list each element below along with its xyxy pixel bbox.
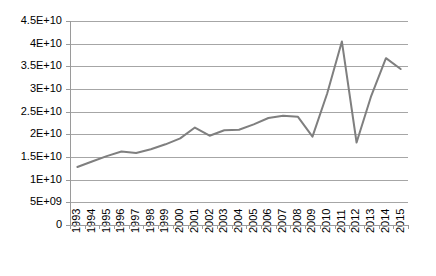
x-axis-tick-labels: 1993199419951996199719981999200020012002…: [70, 209, 405, 233]
x-tick-label: 2005: [247, 209, 259, 233]
x-tick-label: 2007: [276, 209, 288, 233]
x-tick-label: 2001: [188, 209, 200, 233]
x-tick-label: 1993: [70, 209, 82, 233]
y-tick-label: 5E+09: [30, 195, 62, 207]
gridlines: [66, 22, 408, 226]
y-tick-label: 1E+10: [30, 173, 62, 185]
x-tick-label: 2002: [203, 209, 215, 233]
x-tick-label: 2009: [305, 209, 317, 233]
x-tick-label: 1998: [144, 209, 156, 233]
y-tick-label: 1.5E+10: [21, 150, 62, 162]
x-tick-label: 2015: [394, 209, 406, 233]
line-chart: 05E+091E+101.5E+102E+102.5E+103E+103.5E+…: [0, 0, 436, 276]
y-tick-label: 3E+10: [30, 82, 62, 94]
y-tick-label: 0: [56, 218, 62, 230]
x-tick-label: 2012: [349, 209, 361, 233]
x-tick-label: 2006: [261, 209, 273, 233]
x-tick-label: 1994: [85, 209, 97, 233]
x-tick-label: 1996: [114, 209, 126, 233]
y-tick-label: 2.5E+10: [21, 105, 62, 117]
x-tick-label: 2011: [335, 209, 347, 233]
chart-container: 05E+091E+101.5E+102E+102.5E+103E+103.5E+…: [0, 0, 436, 276]
y-tick-label: 2E+10: [30, 127, 62, 139]
x-tick-label: 2010: [320, 209, 332, 233]
data-series-line: [77, 41, 400, 167]
x-tick-label: 2013: [364, 209, 376, 233]
x-tick-label: 2014: [379, 209, 391, 233]
x-tick-label: 2003: [217, 209, 229, 233]
x-tick-label: 2000: [173, 209, 185, 233]
y-tick-label: 3.5E+10: [21, 59, 62, 71]
x-tick-label: 2004: [232, 209, 244, 233]
x-tick-label: 1999: [158, 209, 170, 233]
y-tick-label: 4E+10: [30, 37, 62, 49]
x-tick-label: 2008: [291, 209, 303, 233]
y-tick-label: 4.5E+10: [21, 14, 62, 26]
x-tick-label: 1995: [100, 209, 112, 233]
y-axis-tick-labels: 05E+091E+101.5E+102E+102.5E+103E+103.5E+…: [21, 14, 62, 230]
x-tick-label: 1997: [129, 209, 141, 233]
